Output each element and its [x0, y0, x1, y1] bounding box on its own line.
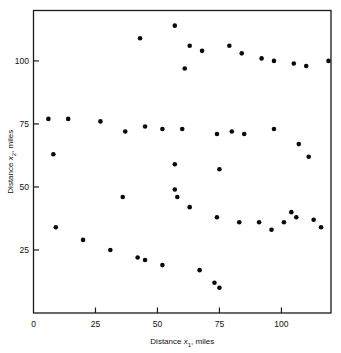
y-axis-tick-label: 25 [20, 245, 30, 255]
data-point [259, 56, 264, 61]
data-point [306, 154, 311, 159]
y-axis-tick-label: 100 [15, 56, 29, 66]
data-point [173, 187, 178, 192]
data-point [143, 258, 148, 263]
data-point [257, 220, 262, 225]
y-axis: 255075100 [15, 56, 39, 255]
data-point [120, 195, 125, 200]
data-point [269, 228, 274, 233]
data-point [200, 49, 205, 54]
data-point-series [46, 23, 331, 290]
data-point [123, 129, 128, 134]
x-axis-tick-label: 25 [91, 319, 101, 329]
data-point [175, 195, 180, 200]
data-point [215, 215, 220, 220]
data-point [230, 129, 235, 134]
y-axis-tick-label: 50 [20, 182, 30, 192]
data-point [182, 66, 187, 71]
data-point [272, 59, 277, 64]
data-point [289, 210, 294, 215]
data-point [242, 132, 247, 137]
data-point [160, 263, 165, 268]
chart-canvas: 0255075100255075100Distance x1, milesDis… [0, 0, 341, 353]
data-point [173, 162, 178, 167]
data-point [227, 43, 232, 48]
data-point [187, 205, 192, 210]
data-point [237, 220, 242, 225]
data-point [197, 268, 202, 273]
data-point [217, 285, 222, 290]
data-point [212, 280, 217, 285]
data-point [311, 217, 316, 222]
data-point [46, 117, 51, 122]
data-point [294, 215, 299, 220]
x-axis: 0255075100 [31, 308, 289, 329]
data-point [138, 36, 143, 41]
data-point [66, 117, 71, 122]
data-point [282, 220, 287, 225]
data-point [143, 124, 148, 129]
x-axis-tick-label: 100 [274, 319, 288, 329]
y-axis-tick-label: 75 [20, 119, 30, 129]
plot-area-border [34, 11, 332, 314]
x-axis-tick-label: 50 [153, 319, 163, 329]
data-point [81, 238, 86, 243]
data-point [54, 225, 59, 230]
scatter-plot-figure: 0255075100255075100Distance x1, milesDis… [0, 0, 341, 353]
x-axis-tick-label: 0 [31, 319, 36, 329]
data-point [173, 23, 178, 28]
data-point [51, 152, 56, 157]
y-axis-title: Distance x2, miles [6, 130, 17, 194]
data-point [108, 248, 113, 253]
data-point [272, 127, 277, 132]
x-axis-title: Distance x1, miles [150, 337, 214, 348]
data-point [215, 132, 220, 137]
data-point [296, 142, 301, 147]
data-point [292, 61, 297, 66]
data-point [304, 64, 309, 69]
data-point [180, 127, 185, 132]
data-point [135, 255, 140, 260]
data-point [319, 225, 324, 230]
data-point [326, 59, 331, 64]
x-axis-tick-label: 75 [215, 319, 225, 329]
data-point [187, 43, 192, 48]
data-point [98, 119, 103, 124]
data-point [239, 51, 244, 56]
data-point [160, 127, 165, 132]
data-point [217, 167, 222, 172]
